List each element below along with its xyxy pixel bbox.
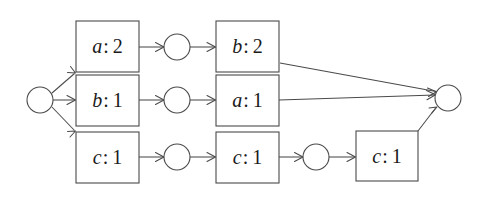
box-count: 1 xyxy=(112,146,122,168)
box-label-b1: b:1 xyxy=(92,89,123,111)
edge-line xyxy=(280,63,436,92)
box-sep: : xyxy=(103,35,109,57)
box-var: b xyxy=(92,89,102,111)
box-layer: a:2 b:1 c:1 b:2 xyxy=(76,21,418,183)
edge-circle-bot-to-c1mid xyxy=(190,153,216,162)
box-var: a xyxy=(232,89,242,111)
box-sep: : xyxy=(382,144,388,166)
box-count: 1 xyxy=(252,146,262,168)
arrow-head-icon xyxy=(68,67,76,74)
edge-source-to-c1-left xyxy=(52,107,76,137)
box-label-a2: a:2 xyxy=(92,35,123,57)
edge-line xyxy=(52,74,75,94)
edge-c1right-to-sink xyxy=(418,107,437,131)
arrow-head-icon xyxy=(68,131,76,137)
node-circle-bottom[interactable] xyxy=(164,144,190,170)
box-count: 2 xyxy=(253,35,263,57)
box-sep: : xyxy=(103,146,109,168)
box-count: 1 xyxy=(113,89,123,111)
box-label-c1-left: c:1 xyxy=(93,146,122,168)
node-box-c1-right[interactable]: c:1 xyxy=(356,131,418,181)
box-var: c xyxy=(233,146,242,168)
node-circle-source[interactable] xyxy=(27,87,53,113)
box-sep: : xyxy=(103,89,109,111)
box-sep: : xyxy=(243,89,249,111)
box-label-c1-mid: c:1 xyxy=(233,146,262,168)
edge-line xyxy=(279,95,435,100)
graph-diagram: a:2 b:1 c:1 b:2 xyxy=(0,0,483,200)
box-var: c xyxy=(372,144,381,166)
node-box-c1-mid[interactable]: c:1 xyxy=(216,132,279,183)
edge-a1-to-sink xyxy=(279,91,436,101)
node-box-b2[interactable]: b:2 xyxy=(216,21,279,72)
edge-b1-to-circle-mid xyxy=(139,96,164,105)
box-count: 1 xyxy=(392,144,402,166)
node-circle-top[interactable] xyxy=(164,34,190,60)
arrow-head-icon xyxy=(429,107,437,114)
node-circle-sink[interactable] xyxy=(435,85,461,111)
graph-canvas: a:2 b:1 c:1 b:2 xyxy=(0,0,483,200)
box-var: a xyxy=(92,35,102,57)
edge-source-to-a2 xyxy=(52,67,76,94)
edge-a2-to-circle-top xyxy=(139,43,164,52)
edge-c1left-to-circle-bot xyxy=(139,153,164,162)
box-label-a1: a:1 xyxy=(232,89,263,111)
node-box-a1[interactable]: a:1 xyxy=(216,75,279,126)
node-box-c1-left[interactable]: c:1 xyxy=(76,132,139,183)
edge-c1mid-to-circle-bot2 xyxy=(279,153,303,162)
box-var: c xyxy=(93,146,102,168)
box-sep: : xyxy=(243,35,249,57)
node-circle-bottom-2[interactable] xyxy=(303,144,329,170)
box-var: b xyxy=(232,35,242,57)
edge-circle-top-to-b2 xyxy=(190,43,216,52)
box-label-b2: b:2 xyxy=(232,35,263,57)
box-label-c1-right: c:1 xyxy=(372,144,401,166)
box-count: 2 xyxy=(113,35,123,57)
node-box-a2[interactable]: a:2 xyxy=(76,21,139,72)
edge-line xyxy=(52,107,75,131)
box-sep: : xyxy=(243,146,249,168)
node-circle-mid[interactable] xyxy=(164,87,190,113)
edge-circle-bot2-to-c1right xyxy=(329,153,356,162)
edge-source-to-b1 xyxy=(53,96,76,105)
edge-circle-mid-to-a1 xyxy=(190,96,216,105)
node-box-b1[interactable]: b:1 xyxy=(76,75,139,126)
box-count: 1 xyxy=(253,89,263,111)
edge-b2-to-sink xyxy=(280,63,437,97)
